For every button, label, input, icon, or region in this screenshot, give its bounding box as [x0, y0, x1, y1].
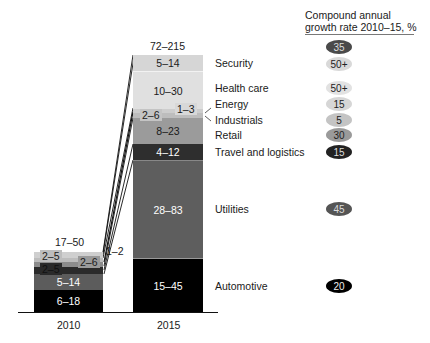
- segment-2015-utilities: 28–83: [133, 160, 203, 258]
- cagr-total-pill: 35: [326, 40, 352, 54]
- cagr-retail-pill: 30: [326, 128, 352, 142]
- label-2010-travel: 2–5: [40, 263, 62, 275]
- cagr-utilities-pill: 45: [326, 202, 352, 216]
- x-label-2010: 2010: [57, 319, 80, 331]
- category-retail: Retail: [215, 129, 242, 141]
- legend-header-line1: Compound annual: [305, 9, 417, 21]
- category-health-care: Health care: [215, 82, 269, 94]
- legend-header: Compound annual growth rate 2010–15, %: [305, 9, 417, 33]
- label-2015-industrials: 2–6: [140, 109, 162, 121]
- cagr-travel-pill: 15: [326, 145, 352, 159]
- segment-2015-travel: 4–12: [133, 144, 203, 160]
- segment-2015-automotive: 15–45: [133, 258, 203, 312]
- category-utilities: Utilities: [215, 203, 249, 215]
- label-2010-callout: 1–2: [106, 245, 124, 257]
- label-2010-retail: 2–6: [78, 256, 100, 268]
- label-2010-security: 2–5: [40, 250, 62, 262]
- cagr-industrials-pill: 5: [326, 113, 352, 127]
- label-2015-energy: 1–3: [175, 103, 197, 115]
- total-2015: 72–215: [150, 40, 185, 52]
- segment-2010-automotive: 6–18: [34, 290, 103, 312]
- legend-header-line2: growth rate 2010–15, %: [305, 21, 417, 33]
- category-industrials: Industrials: [215, 114, 263, 126]
- category-travel: Travel and logistics: [215, 146, 304, 158]
- total-2010: 17–50: [55, 236, 84, 248]
- category-security: Security: [215, 57, 253, 69]
- category-energy: Energy: [215, 98, 248, 110]
- cagr-energy-pill: 15: [326, 97, 352, 111]
- segment-2015-security: 5–14: [133, 55, 203, 71]
- x-label-2015: 2015: [157, 319, 180, 331]
- category-automotive: Automotive: [215, 280, 268, 292]
- segment-2010-utilities: 5–14: [34, 274, 103, 290]
- cagr-automotive-pill: 20: [326, 279, 352, 293]
- cagr-health-pill: 50+: [326, 81, 352, 95]
- segment-2015-retail: 8–23: [133, 118, 203, 144]
- cagr-security-pill: 50+: [326, 57, 352, 71]
